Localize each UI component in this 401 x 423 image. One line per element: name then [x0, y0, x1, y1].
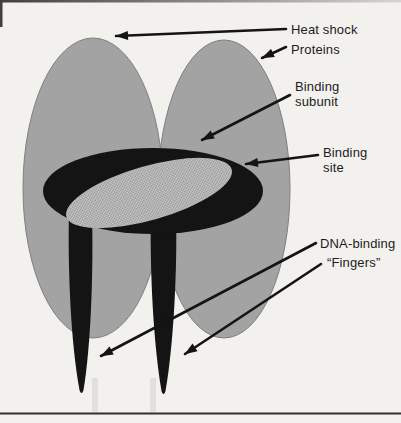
dna-binding-label: DNA-binding	[320, 236, 395, 251]
binding-subunit-label-line2: subunit	[295, 94, 339, 109]
proteins-arrow	[262, 47, 286, 58]
binding-site-label-line2: site	[323, 160, 367, 175]
heat-shock-label: Heat shock	[291, 22, 358, 37]
scan-streak-right	[150, 378, 156, 412]
binding-subunit-label-line1: Binding	[295, 79, 339, 94]
receptor-diagram-figure: Heat shock Proteins Binding subunit Bind…	[0, 0, 401, 423]
bottom-rule	[0, 413, 401, 415]
proteins-label: Proteins	[291, 42, 340, 57]
scan-streak-left	[92, 378, 98, 412]
binding-site-label: Binding site	[323, 145, 367, 175]
fingers-label: “Fingers”	[327, 255, 380, 270]
page-left-edge	[0, 0, 3, 27]
dna-finger-right	[151, 210, 177, 394]
dna-finger-left	[69, 210, 93, 393]
binding-subunit-label: Binding subunit	[295, 79, 339, 109]
page-top-edge	[0, 0, 401, 3]
diagram-canvas	[0, 0, 401, 423]
heat-shock-arrow	[116, 29, 286, 36]
binding-site-label-line1: Binding	[323, 145, 367, 160]
